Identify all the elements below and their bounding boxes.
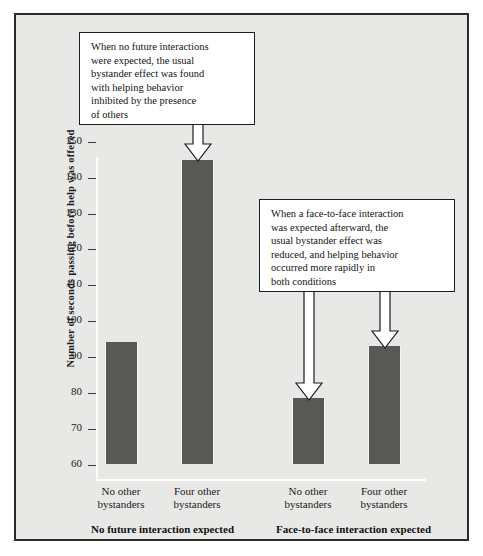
y-tick-label: 140: [48, 170, 82, 182]
callout-line: with helping behavior: [91, 81, 245, 95]
category-label-face-four-other: Four other bystanders: [338, 485, 430, 511]
y-tick-label: 120: [48, 241, 82, 253]
y-tick-label: 60: [48, 457, 82, 469]
y-tick-label: 150: [48, 134, 82, 146]
callout-line: both conditions: [271, 275, 445, 289]
y-tick-mark: [88, 357, 96, 358]
y-tick-label: 90: [48, 349, 82, 361]
callout-line: bystander effect was found: [91, 67, 245, 81]
y-tick-label: 80: [48, 385, 82, 397]
callout-line: When a face-to-face interaction: [271, 207, 445, 221]
callout-face-to-face: When a face-to-face interaction was expe…: [259, 199, 455, 292]
callout-line: When no future interactions: [91, 40, 245, 54]
y-tick-mark: [88, 142, 96, 143]
y-tick-mark: [88, 249, 96, 250]
bar-chart-figure: Number of seconds passing before help wa…: [0, 0, 483, 556]
callout-arrow-face-four-other: [371, 287, 399, 349]
callout-no-future: When no future interactions were expecte…: [79, 32, 255, 125]
category-label-no-future-four-other: Four other bystanders: [151, 485, 243, 511]
y-tick-mark: [88, 393, 96, 394]
y-axis-line: [96, 157, 98, 480]
y-tick-label: 70: [48, 421, 82, 433]
callout-arrow-no-future: [184, 120, 212, 162]
y-tick-mark: [88, 321, 96, 322]
bar-face-to-face-no-other: [293, 398, 324, 464]
callout-arrow-face-no-other: [295, 287, 323, 401]
x-axis-line: [96, 479, 426, 481]
category-label-line1: Four other: [151, 485, 243, 498]
y-tick-mark: [88, 178, 96, 179]
callout-line: of others: [91, 108, 245, 122]
callout-line: were expected, the usual: [91, 54, 245, 68]
y-tick-mark: [88, 429, 96, 430]
y-tick-mark: [88, 285, 96, 286]
callout-line: inhibited by the presence: [91, 94, 245, 108]
y-tick-label: 100: [48, 313, 82, 325]
category-label-line2: bystanders: [151, 498, 243, 511]
y-tick-label: 110: [48, 277, 82, 289]
category-label-line2: bystanders: [338, 498, 430, 511]
callout-line: occurred more rapidly in: [271, 261, 445, 275]
callout-line: usual bystander effect was: [271, 234, 445, 248]
y-tick-mark: [88, 465, 96, 466]
category-label-line1: Four other: [338, 485, 430, 498]
bar-face-to-face-four-other: [369, 346, 400, 464]
y-tick-mark: [88, 214, 96, 215]
y-tick-label: 130: [48, 206, 82, 218]
group-label-face-to-face: Face-to-face interaction expected: [246, 523, 461, 535]
chart-frame: Number of seconds passing before help wa…: [14, 13, 469, 541]
group-label-no-future: No future interaction expected: [60, 523, 265, 535]
callout-line: reduced, and helping behavior: [271, 248, 445, 262]
bar-no-future-no-other: [106, 342, 137, 464]
bar-no-future-four-other: [182, 160, 213, 464]
callout-line: was expected afterward, the: [271, 221, 445, 235]
